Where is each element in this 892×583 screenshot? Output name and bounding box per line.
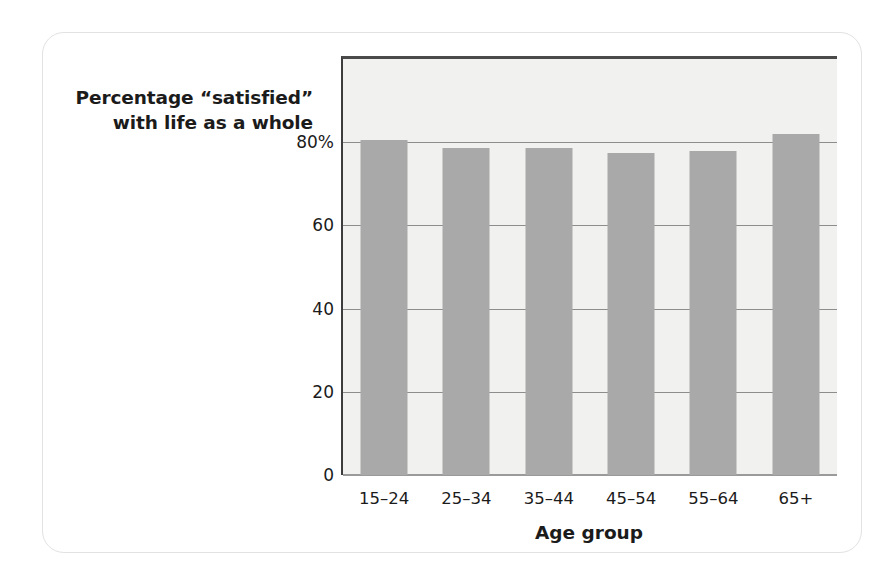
bar: [690, 151, 737, 475]
y-tick-label: 80%: [296, 132, 334, 152]
bar-group: 35–44: [508, 59, 590, 475]
y-tick-label: 20: [312, 382, 334, 402]
bar-group: 45–54: [590, 59, 672, 475]
y-axis-title: Percentage “satisfied” with life as a wh…: [63, 85, 313, 135]
x-tick-label: 45–54: [606, 489, 656, 508]
x-tick-label: 35–44: [524, 489, 574, 508]
x-tick-label: 25–34: [441, 489, 491, 508]
y-tick-label: 0: [323, 465, 334, 485]
bar: [525, 148, 572, 475]
bar-group: 15–24: [343, 59, 425, 475]
x-axis-title: Age group: [341, 522, 837, 543]
bar: [361, 140, 408, 475]
bar: [772, 134, 819, 475]
y-axis-title-line-2: with life as a whole: [63, 110, 313, 135]
x-tick-label: 65+: [778, 489, 813, 508]
bar-group: 25–34: [425, 59, 507, 475]
bars-layer: 15–2425–3435–4445–5455–6465+: [343, 59, 837, 475]
x-tick-label: 15–24: [359, 489, 409, 508]
y-tick-label: 40: [312, 299, 334, 319]
bar: [443, 148, 490, 475]
y-tick-label: 60: [312, 215, 334, 235]
bar-group: 55–64: [672, 59, 754, 475]
y-axis-title-line-1: Percentage “satisfied”: [63, 85, 313, 110]
bar-group: 65+: [755, 59, 837, 475]
bar: [608, 153, 655, 475]
plot-area: 15–2425–3435–4445–5455–6465+ 020406080%: [341, 56, 837, 475]
figure-card: Percentage “satisfied” with life as a wh…: [42, 32, 862, 553]
x-tick-label: 55–64: [688, 489, 738, 508]
